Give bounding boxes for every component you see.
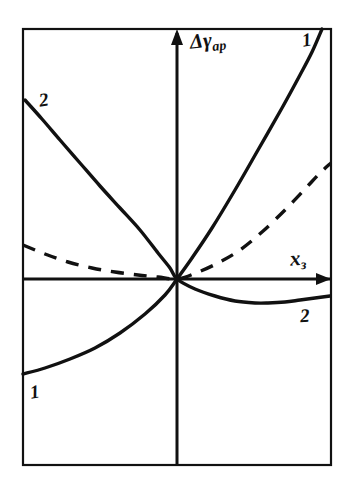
curve-label-2-bottom: 2 <box>299 306 310 326</box>
x-axis-label-subscript: з <box>300 257 307 272</box>
plot-canvas <box>0 0 349 477</box>
y-axis-label-subscript: ар <box>212 38 227 54</box>
figure-container: 1 1 2 2 Δγар xз <box>0 0 349 477</box>
canvas-background <box>0 0 349 477</box>
x-axis-label: xз <box>289 247 307 273</box>
curve-label-2-top: 2 <box>38 89 50 109</box>
y-axis-label-main: Δγ <box>189 28 213 54</box>
y-axis-label: Δγар <box>189 28 227 56</box>
